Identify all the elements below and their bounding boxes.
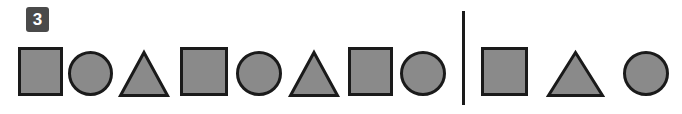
triangle-icon [547,51,604,97]
circle-icon [623,51,669,96]
option-2-triangle[interactable] [547,51,604,97]
option-3-circle[interactable] [623,51,669,96]
answer-options [0,0,682,114]
square-icon [481,47,528,96]
option-1-square[interactable] [481,47,528,96]
question-canvas: 3 [0,0,682,114]
